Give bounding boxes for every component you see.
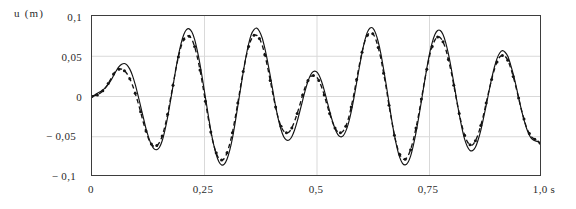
data-point-marker	[161, 134, 164, 137]
data-point-marker	[506, 59, 509, 62]
data-point-marker	[118, 68, 121, 71]
data-point-marker	[307, 79, 310, 82]
y-tick-label-0: 0,1	[20, 11, 82, 23]
data-point-marker	[398, 153, 401, 156]
data-point-marker	[501, 54, 504, 57]
y-tick-label-1: 0,05	[20, 51, 82, 63]
data-point-marker	[377, 46, 380, 49]
data-point-marker	[107, 82, 110, 85]
data-point-marker	[177, 56, 180, 59]
data-point-marker	[420, 97, 423, 100]
data-point-marker	[382, 72, 385, 75]
gridlines	[92, 16, 541, 176]
data-point-marker	[215, 151, 218, 154]
data-point-marker	[393, 134, 396, 137]
x-tick-label-0: 0	[76, 183, 106, 195]
data-point-marker	[166, 113, 169, 116]
data-point-marker	[96, 93, 99, 96]
data-point-marker	[253, 34, 256, 37]
data-point-marker	[469, 143, 472, 146]
data-point-marker	[263, 53, 266, 56]
data-point-marker	[523, 118, 526, 121]
data-point-marker	[139, 110, 142, 113]
data-point-marker	[236, 101, 239, 104]
data-point-marker	[496, 60, 499, 63]
data-point-marker	[128, 77, 131, 80]
data-point-marker	[344, 125, 347, 128]
data-point-marker	[323, 93, 326, 96]
data-point-marker	[463, 134, 466, 137]
data-point-marker	[193, 45, 196, 48]
x-tick-label-3: 0,75	[413, 183, 443, 195]
data-point-marker	[155, 144, 158, 147]
plot-canvas	[92, 16, 541, 176]
data-point-marker	[415, 126, 418, 129]
data-point-marker	[258, 37, 261, 40]
data-point-marker	[274, 105, 277, 108]
data-point-marker	[145, 130, 148, 133]
data-point-marker	[474, 139, 477, 142]
y-tick-label-3: − 0,05	[14, 130, 76, 142]
data-point-marker	[442, 40, 445, 43]
data-point-marker	[431, 45, 434, 48]
data-point-marker	[150, 142, 153, 145]
data-point-marker	[301, 93, 304, 96]
data-point-marker	[285, 131, 288, 134]
data-point-marker	[312, 74, 315, 77]
data-point-marker	[388, 104, 391, 107]
chart-figure: u (m) 0,1 0,05 0 − 0,05 − 0,1 0 0,25 0,5…	[0, 0, 576, 209]
x-tick-label-1: 0,25	[188, 183, 218, 195]
data-point-marker	[490, 78, 493, 81]
data-point-marker	[188, 35, 191, 38]
plot-area	[91, 15, 541, 176]
x-tick-label-2: 0,5	[301, 183, 331, 195]
data-point-marker	[112, 72, 115, 75]
data-point-marker	[425, 68, 428, 71]
data-point-marker	[339, 131, 342, 134]
data-point-marker	[226, 151, 229, 154]
data-point-marker	[334, 126, 337, 129]
data-point-marker	[231, 131, 234, 134]
data-point-marker	[172, 84, 175, 87]
data-point-marker	[409, 148, 412, 151]
data-point-marker	[199, 68, 202, 71]
data-point-marker	[458, 112, 461, 115]
data-point-marker	[528, 132, 531, 135]
data-point-marker	[134, 92, 137, 95]
data-point-marker	[296, 112, 299, 115]
data-point-marker	[485, 101, 488, 104]
data-point-marker	[123, 69, 126, 72]
data-point-marker	[436, 35, 439, 38]
data-point-marker	[204, 100, 207, 103]
data-point-marker	[361, 51, 364, 54]
data-point-marker	[404, 158, 407, 161]
data-point-marker	[452, 84, 455, 87]
x-tick-label-4: 1,0 s	[523, 183, 565, 195]
data-point-marker	[366, 34, 369, 37]
data-point-marker	[269, 79, 272, 82]
data-point-marker	[317, 79, 320, 82]
data-point-marker	[533, 138, 536, 141]
data-point-marker	[220, 159, 223, 162]
y-tick-label-2: 0	[20, 91, 82, 103]
data-point-marker	[350, 105, 353, 108]
data-point-marker	[209, 130, 212, 133]
data-point-marker	[355, 78, 358, 81]
data-point-marker	[479, 124, 482, 127]
data-point-marker	[512, 75, 515, 78]
y-tick-label-4: − 0,1	[14, 170, 76, 182]
data-point-marker	[247, 45, 250, 48]
data-point-marker	[517, 97, 520, 100]
data-point-marker	[182, 38, 185, 41]
data-point-marker	[242, 70, 245, 73]
data-point-marker	[328, 112, 331, 115]
data-point-marker	[101, 89, 104, 92]
data-point-marker	[371, 32, 374, 35]
data-point-marker	[290, 126, 293, 129]
data-point-marker	[447, 58, 450, 61]
data-point-marker	[280, 125, 283, 128]
